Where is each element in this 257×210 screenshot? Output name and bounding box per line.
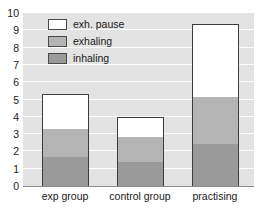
- y-tick-label: 10: [1, 8, 19, 18]
- legend: exh. pause exhaling inhaling: [48, 18, 124, 65]
- x-tick-label-exp-group: exp group: [42, 190, 89, 202]
- y-tick-label: 2: [1, 146, 19, 156]
- legend-item-exhaling: exhaling: [48, 35, 124, 48]
- bar-segment-exhaling: [193, 97, 238, 143]
- legend-label: exhaling: [73, 36, 112, 47]
- bar-segment-inhaling: [43, 157, 88, 186]
- y-tick-label: 6: [1, 77, 19, 87]
- legend-label: inhaling: [73, 53, 109, 64]
- legend-label: exh. pause: [73, 19, 124, 30]
- bar-segment-exhaling: [118, 137, 163, 162]
- legend-swatch-icon: [48, 36, 67, 47]
- stacked-bar-chart: 10 9 8 7 6 5 4 3 2 1 0 exh. pause exhali…: [0, 0, 257, 210]
- x-tick-label-control-group: control group: [109, 190, 170, 202]
- legend-item-inhaling: inhaling: [48, 52, 124, 65]
- legend-item-exh-pause: exh. pause: [48, 18, 124, 31]
- legend-swatch-icon: [48, 53, 67, 64]
- bar-practising[interactable]: [192, 24, 239, 186]
- bar-segment-exh-pause: [193, 25, 238, 97]
- bar-segment-inhaling: [193, 144, 238, 186]
- y-tick-label: 9: [1, 25, 19, 35]
- x-tick-label-practising: practising: [193, 190, 238, 202]
- y-tick-label: 3: [1, 129, 19, 139]
- x-axis: exp group control group practising: [23, 190, 254, 208]
- y-tick-label: 8: [1, 43, 19, 53]
- bar-exp-group[interactable]: [42, 94, 89, 186]
- x-axis-baseline: [23, 186, 254, 187]
- y-tick-label: 0: [1, 181, 19, 191]
- y-tick-label: 5: [1, 95, 19, 105]
- y-tick-label: 7: [1, 60, 19, 70]
- y-tick-label: 4: [1, 112, 19, 122]
- y-tick-label: 1: [1, 164, 19, 174]
- legend-swatch-icon: [48, 19, 67, 30]
- y-axis: 10 9 8 7 6 5 4 3 2 1 0: [0, 0, 22, 210]
- bar-segment-exh-pause: [43, 95, 88, 129]
- bar-segment-exh-pause: [118, 118, 163, 138]
- bar-control-group[interactable]: [117, 117, 164, 186]
- bar-segment-inhaling: [118, 162, 163, 186]
- bar-segment-exhaling: [43, 129, 88, 157]
